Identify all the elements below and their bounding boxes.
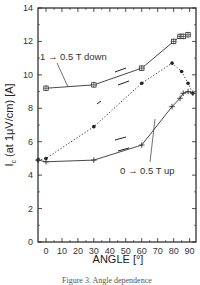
- direction-arrow-down-2: [118, 81, 129, 85]
- chart: 010203040506070809002468101214 1 → 0.5 T…: [0, 0, 200, 285]
- data-point: [139, 65, 145, 71]
- data-point: [180, 70, 184, 74]
- y-tick-label: 12: [23, 36, 33, 46]
- y-tick-label: 4: [28, 170, 33, 180]
- direction-arrow-down-1: [115, 68, 126, 72]
- x-tick-label: 20: [73, 246, 83, 256]
- data-point: [171, 38, 177, 44]
- x-tick-label: 10: [57, 246, 67, 256]
- x-axis-title: ANGLE [°]: [93, 253, 144, 265]
- y-tick-label: 2: [28, 204, 33, 214]
- direction-arrow-up-1: [115, 137, 126, 140]
- data-point: [43, 85, 49, 91]
- x-tick-label: 0: [43, 246, 48, 256]
- y-axis-title-rest: (at 1μV/cm) [A]: [3, 83, 15, 160]
- series-line-2: [38, 92, 193, 162]
- y-tick-label: 14: [23, 3, 33, 13]
- data-point: [180, 33, 186, 39]
- svg-text:Ic (at 1μV/cm) [A]: Ic (at 1μV/cm) [A]: [3, 83, 17, 166]
- axes: 010203040506070809002468101214: [23, 3, 196, 256]
- data-point: [92, 125, 96, 129]
- y-tick-label: 8: [28, 103, 33, 113]
- leader-line-down: [57, 63, 68, 87]
- annotation-down: 1 → 0.5 T down: [40, 51, 107, 62]
- data-point: [180, 90, 186, 96]
- data-point: [91, 157, 97, 163]
- annotations-layer: 1 → 0.5 T down 0 → 0.5 T up: [40, 51, 175, 176]
- x-tick-label: 70: [153, 246, 163, 256]
- y-tick-label: 0: [28, 237, 33, 247]
- data-point: [186, 81, 190, 85]
- leader-line-up: [150, 119, 155, 162]
- data-point: [43, 159, 49, 165]
- y-tick-label: 6: [28, 137, 33, 147]
- direction-arrow-mid: [97, 101, 101, 104]
- y-tick-label: 10: [23, 70, 33, 80]
- x-tick-label: 90: [185, 246, 195, 256]
- y-axis-title: Ic (at 1μV/cm) [A]: [3, 83, 17, 166]
- data-point: [170, 61, 174, 65]
- x-tick-label: 80: [169, 246, 179, 256]
- data-point: [91, 82, 97, 88]
- data-point: [140, 81, 144, 85]
- data-point: [185, 89, 191, 95]
- data-point: [185, 32, 191, 38]
- figure-caption: Figure 3. Angle dependence: [62, 276, 152, 285]
- annotation-up: 0 → 0.5 T up: [120, 165, 175, 176]
